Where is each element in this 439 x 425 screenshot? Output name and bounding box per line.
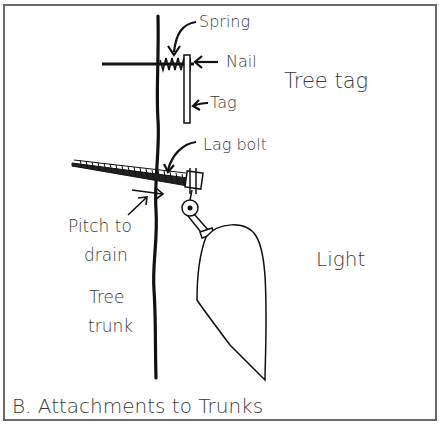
tree-tag-plate <box>184 55 190 123</box>
label-pitch-line1: Pitch to <box>68 216 132 236</box>
spring-arrow <box>174 22 196 52</box>
lag-bolt-head <box>185 168 203 194</box>
diagram-caption: B. Attachments to Trunks <box>12 394 263 418</box>
light-fixture <box>197 225 266 380</box>
label-lag-bolt: Lag bolt <box>203 135 267 154</box>
label-nail: Nail <box>226 52 257 71</box>
label-tag: Tag <box>210 93 237 112</box>
label-spring: Spring <box>199 12 250 31</box>
label-pitch-line2: drain <box>84 245 128 265</box>
label-tree-line1: Tree <box>89 287 124 307</box>
label-tree-tag: Tree tag <box>284 69 368 93</box>
attachment-diagram: Spring Nail Tag Tree tag Lag bolt Pitch … <box>0 0 439 425</box>
pitch-arrow <box>132 190 162 194</box>
spring-coil <box>160 58 187 70</box>
label-tree-line2: trunk <box>88 316 133 336</box>
label-light: Light <box>316 247 365 271</box>
pitch-pointer-arrow <box>128 198 146 215</box>
